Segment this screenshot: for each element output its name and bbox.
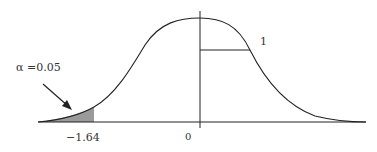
density-curve [38,18,366,122]
alpha-label: α =0.05 [16,61,61,74]
sd-label: 1 [260,35,267,48]
zero-label: 0 [185,131,191,142]
normal-curve-chart [0,0,377,152]
critical-value-label: −1.64 [66,131,100,144]
alpha-arrow [43,84,68,106]
shaded-tail [38,107,94,122]
